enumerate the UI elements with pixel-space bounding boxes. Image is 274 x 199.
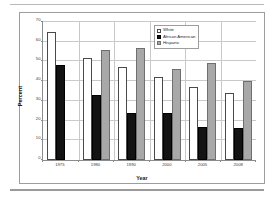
legend-label: Hispanic (163, 41, 179, 45)
legend-label: African American (163, 35, 195, 39)
bar (189, 87, 198, 160)
page-rule-top (10, 4, 264, 5)
group-separator (150, 22, 151, 160)
group-separator (221, 22, 222, 160)
bar (127, 113, 136, 160)
page-rule-bottom (10, 189, 264, 191)
bar-group (114, 22, 150, 160)
bar (225, 93, 234, 160)
bar (207, 63, 216, 160)
bar-group (43, 22, 79, 160)
bar (118, 67, 127, 160)
group-separator (79, 22, 80, 160)
y-tick-label: 50 (36, 56, 41, 61)
legend-swatch-gray-icon (157, 41, 161, 45)
bar (83, 58, 92, 161)
bar (234, 128, 243, 160)
legend-swatch-white-icon (157, 29, 161, 33)
bar (92, 95, 101, 160)
x-tick-label: 2005 (185, 162, 221, 171)
bar (198, 127, 207, 161)
x-tick-label: 2008 (220, 162, 256, 171)
legend-item-hispanic: Hispanic (157, 40, 195, 46)
legend-swatch-black-icon (157, 35, 161, 39)
y-tick-label: 70 (36, 17, 41, 22)
bar (172, 69, 181, 160)
x-tick-label: 1975 (42, 162, 78, 171)
bar-group (79, 22, 115, 160)
y-tick-label: 40 (36, 76, 41, 81)
y-tick-label: 10 (36, 135, 41, 140)
x-tick-labels: 197519801990200020052008 (42, 162, 256, 171)
bar (154, 77, 163, 160)
legend-label: White (163, 28, 174, 32)
x-tick-label: 1980 (78, 162, 114, 171)
bar (56, 65, 65, 160)
bar (136, 48, 145, 160)
y-tick-label: 60 (36, 36, 41, 41)
bar-group (221, 22, 257, 160)
bar-chart-figure: Percent 010203040506070 1975198019902000… (19, 12, 265, 184)
chart-legend: White African American Hispanic (154, 25, 199, 49)
bar (243, 81, 252, 160)
bar (47, 32, 56, 160)
x-axis-title: Year (20, 175, 264, 181)
x-tick-label: 1990 (113, 162, 149, 171)
y-tick-label: 30 (36, 95, 41, 100)
x-tick-label: 2000 (149, 162, 185, 171)
group-separator (114, 22, 115, 160)
bar (101, 50, 110, 160)
bar-groups (43, 22, 256, 160)
plot-area: 010203040506070 (42, 22, 256, 161)
bar (163, 113, 172, 160)
y-axis-title: Percent (17, 61, 23, 131)
y-tick-label: 20 (36, 115, 41, 120)
